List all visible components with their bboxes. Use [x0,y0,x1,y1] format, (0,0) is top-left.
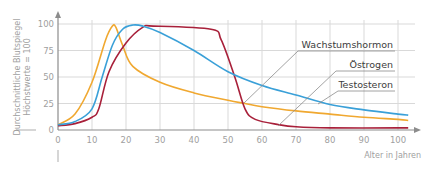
y-axis-label: Durchschnittliche Blutspiegel Höchstwert… [13,19,32,136]
y-axis-label-line2: Höchstwerte = 100 [23,38,32,116]
x-tick-label: 0 [55,135,60,145]
x-axis-arrow-icon [414,127,421,133]
y-tick-label: 100 [38,19,54,29]
legend-label: Wachstumshormon [302,39,393,50]
y-tick-label: 50 [43,72,54,82]
x-tick-label: 70 [291,135,302,145]
x-tick-label: 90 [359,135,370,145]
legend-label: Östrogen [349,59,393,70]
x-axis-label: Alter in Jahren [364,151,421,160]
y-axis-label-line1: Durchschnittliche Blutspiegel [13,19,22,136]
x-tick-label: 30 [155,135,166,145]
hormone-line-chart: 02550751000102030405060708090100 Wachstu… [0,0,433,173]
y-axis-arrow-icon [55,11,61,18]
x-tick-label: 60 [257,135,268,145]
x-tick-label: 80 [325,135,336,145]
x-tick-label: 100 [390,135,406,145]
legend-leader-line [278,71,336,126]
x-tick-label: 10 [87,135,98,145]
x-tick-label: 40 [189,135,200,145]
x-tick-label: 20 [121,135,132,145]
legend-label: Testosteron [337,79,393,90]
y-tick-label: 0 [49,125,54,135]
y-tick-label: 75 [43,46,54,56]
y-tick-label: 25 [43,99,54,109]
x-tick-label: 50 [223,135,234,145]
legend-leader-line [318,91,338,104]
